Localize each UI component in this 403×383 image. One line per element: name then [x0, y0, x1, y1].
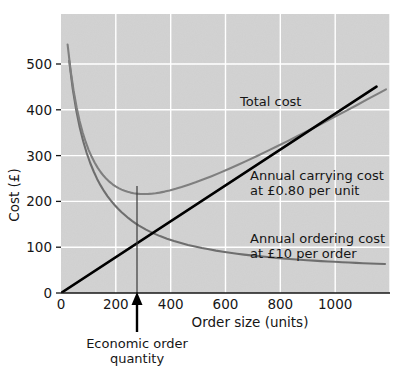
series-label-ordering-cost-line1: Annual ordering cost	[250, 231, 385, 246]
y-axis-ticks	[56, 64, 61, 293]
x-tick-label-0: 0	[57, 296, 66, 312]
y-tick-label-0: 0	[43, 285, 52, 301]
series-label-ordering-cost-line2: at £10 per order	[250, 246, 357, 261]
x-tick-label-200: 200	[103, 296, 129, 312]
chart-canvas: 0 100 200 300 400 500 0 200 400 600 800 …	[0, 0, 403, 383]
series-label-total-cost: Total cost	[239, 94, 301, 109]
eoq-chart-figure: 0 100 200 300 400 500 0 200 400 600 800 …	[0, 0, 403, 383]
y-tick-label-200: 200	[26, 193, 52, 209]
x-axis-title: Order size (units)	[192, 314, 309, 330]
y-tick-label-100: 100	[26, 239, 52, 255]
series-label-carrying-cost-line1: Annual carrying cost	[250, 168, 384, 183]
x-tick-label-600: 600	[213, 296, 239, 312]
eoq-annotation-line2: quantity	[110, 351, 165, 366]
eoq-arrow-icon	[132, 292, 143, 332]
y-tick-label-300: 300	[26, 148, 52, 164]
eoq-annotation-line1: Economic order	[86, 336, 188, 351]
x-tick-label-1000: 1000	[318, 296, 352, 312]
series-label-carrying-cost-line2: at £0.80 per unit	[250, 183, 359, 198]
y-tick-label-400: 400	[26, 102, 52, 118]
x-tick-label-800: 800	[267, 296, 293, 312]
y-axis-title: Cost (£)	[6, 168, 22, 221]
x-tick-label-400: 400	[158, 296, 184, 312]
y-tick-label-500: 500	[26, 56, 52, 72]
